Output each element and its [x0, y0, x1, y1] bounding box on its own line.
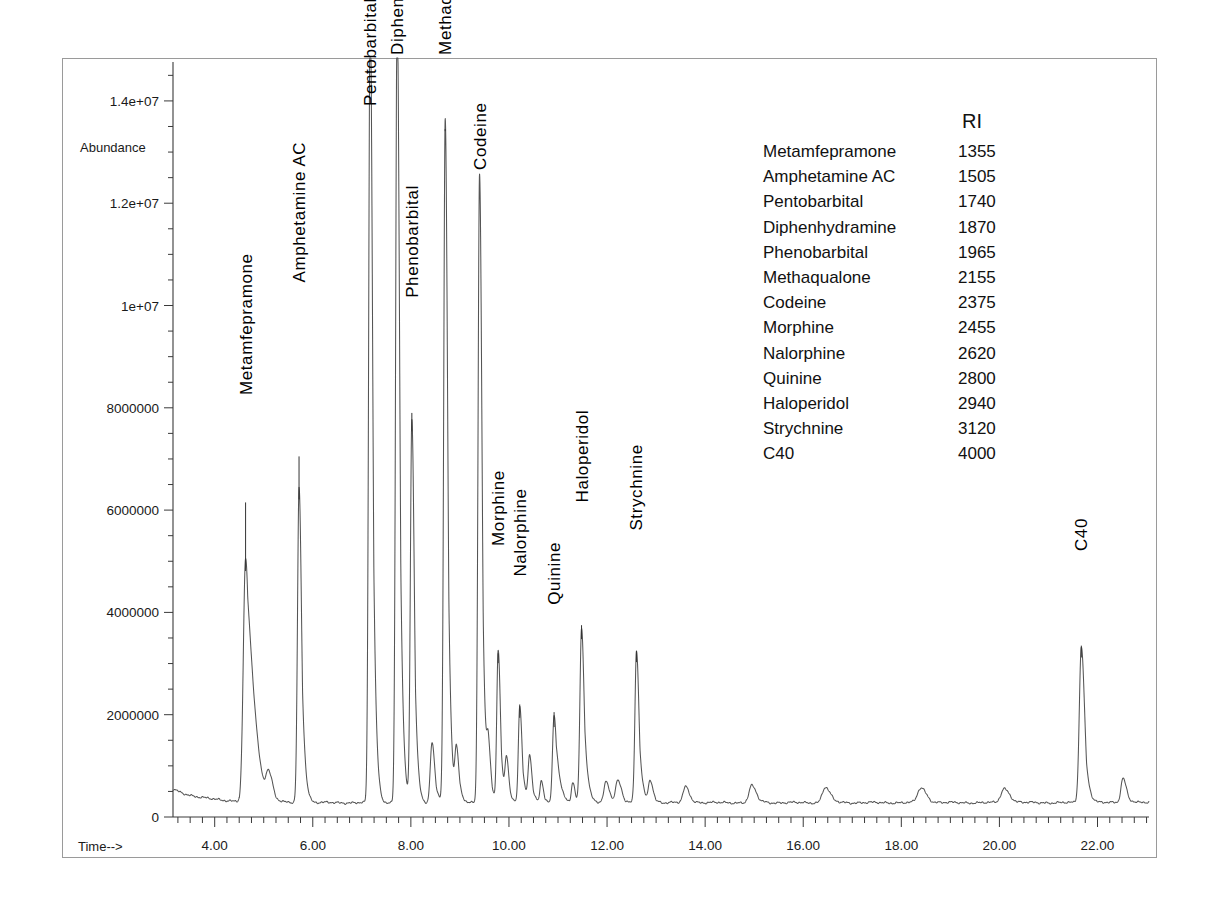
chromatogram-plot: Abundance Time--> 0200000040000006000000… [0, 0, 1209, 898]
peak-annotation: Nalorphine [511, 488, 530, 717]
x-tick-label: 16.00 [786, 838, 820, 853]
peak-label: Morphine [489, 470, 508, 546]
peak-label: Methaqualone [436, 0, 455, 55]
peak-annotation: Haloperidol [573, 410, 592, 639]
x-tick-label: 22.00 [1081, 838, 1115, 853]
x-axis-title: Time--> [78, 839, 123, 854]
y-tick-label: 8000000 [106, 401, 159, 416]
legend-compound-name: Phenobarbital [763, 243, 868, 262]
legend-compound-name: Haloperidol [763, 394, 849, 413]
peak-label: Phenobarbital [403, 185, 422, 298]
legend-ri-value: 2455 [958, 318, 996, 337]
peak-label: Metamfepramone [237, 253, 256, 395]
chromatogram-figure: Abundance Time--> 0200000040000006000000… [0, 0, 1209, 898]
peak-annotation: Diphenhydramine [388, 0, 407, 55]
legend-compound-name: Pentobarbital [763, 192, 863, 211]
peak-label: Codeine [471, 102, 490, 170]
peak-annotation: Pentobarbital [361, 0, 380, 106]
x-tick-label: 20.00 [983, 838, 1017, 853]
legend-compound-name: Codeine [763, 293, 826, 312]
y-tick-label: 6000000 [106, 503, 159, 518]
peak-label: Quinine [545, 542, 564, 605]
peak-label: Nalorphine [511, 488, 530, 576]
legend-ri-value: 1505 [958, 167, 996, 186]
legend-compound-name: Diphenhydramine [763, 218, 896, 237]
legend-compound-name: Metamfepramone [763, 142, 896, 161]
legend-ri-value: 2940 [958, 394, 996, 413]
y-axis-title: Abundance [80, 140, 146, 155]
legend-ri-value: 1965 [958, 243, 996, 262]
y-axis: 020000004000000600000080000001e+071.2e+0… [106, 62, 173, 825]
legend-compound-name: Nalorphine [763, 344, 845, 363]
peak-label: Amphetamine AC [290, 142, 309, 283]
y-tick-label: 1.2e+07 [110, 196, 159, 211]
legend-compound-name: Quinine [763, 369, 822, 388]
peak-label: Haloperidol [573, 410, 592, 503]
legend-ri-value: 1355 [958, 142, 996, 161]
legend-ri-value: 2620 [958, 344, 996, 363]
peak-annotation: Amphetamine AC [290, 142, 309, 500]
x-axis: 4.006.008.0010.0012.0014.0016.0018.0020.… [173, 817, 1149, 853]
peak-annotation: Phenobarbital [403, 185, 422, 431]
legend-ri-value: 2155 [958, 268, 996, 287]
peak-label: C40 [1072, 518, 1091, 551]
legend-compound-name: C40 [763, 444, 794, 463]
y-tick-label: 1.4e+07 [110, 94, 159, 109]
legend-compound-name: Amphetamine AC [763, 167, 895, 186]
y-tick-label: 1e+07 [121, 299, 159, 314]
legend-ri-value: 4000 [958, 444, 996, 463]
legend-ri-value: 3120 [958, 419, 996, 438]
x-tick-label: 8.00 [398, 838, 424, 853]
legend-ri-value: 1740 [958, 192, 996, 211]
peak-annotation: Strychnine [627, 444, 646, 662]
peak-annotation: Methaqualone [436, 0, 455, 131]
legend-compound-name: Morphine [763, 318, 834, 337]
legend-compound-name: Strychnine [763, 419, 843, 438]
y-tick-label: 0 [151, 810, 159, 825]
y-tick-label: 4000000 [106, 605, 159, 620]
peak-label: Pentobarbital [361, 0, 380, 106]
peak-annotation: Metamfepramone [237, 253, 256, 571]
x-tick-label: 14.00 [688, 838, 722, 853]
peak-annotation: C40 [1072, 518, 1091, 657]
x-tick-label: 18.00 [884, 838, 918, 853]
legend-header-ri: RI [962, 110, 982, 132]
peak-annotation: Morphine [489, 470, 508, 663]
peak-label: Diphenhydramine [388, 0, 407, 55]
x-tick-label: 12.00 [590, 838, 624, 853]
x-tick-label: 6.00 [300, 838, 326, 853]
legend-ri-value: 2375 [958, 293, 996, 312]
peak-label: Strychnine [627, 444, 646, 530]
legend-compound-name: Methaqualone [763, 268, 871, 287]
peak-annotation: Codeine [471, 102, 490, 170]
ri-legend: RIMetamfepramone1355Amphetamine AC1505Pe… [763, 110, 996, 463]
chromatogram-trace [173, 58, 1149, 804]
legend-ri-value: 2800 [958, 369, 996, 388]
x-tick-label: 4.00 [202, 838, 228, 853]
legend-ri-value: 1870 [958, 218, 996, 237]
peak-annotation: Quinine [545, 542, 564, 727]
x-tick-label: 10.00 [492, 838, 526, 853]
y-tick-label: 2000000 [106, 708, 159, 723]
